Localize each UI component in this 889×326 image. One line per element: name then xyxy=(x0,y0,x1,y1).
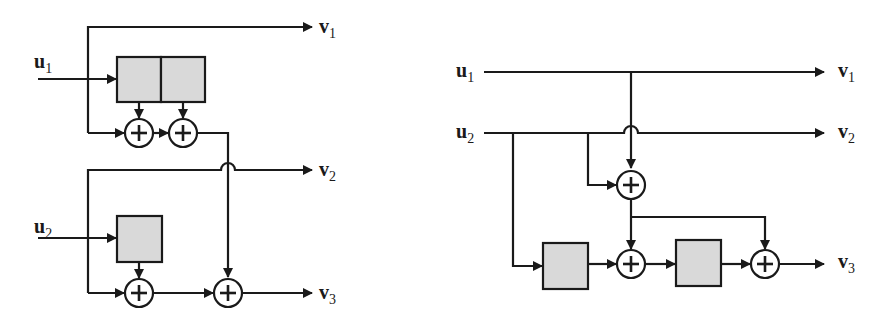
adder-3-right xyxy=(751,250,779,278)
label-v3-right: v3 xyxy=(838,250,855,276)
right-encoder: u1 u2 v1 v2 v3 xyxy=(456,59,855,289)
label-v1-left: v1 xyxy=(319,15,336,41)
tap-u2-to-register xyxy=(513,133,542,266)
left-encoder: u1 u2 v1 v2 v3 xyxy=(34,15,336,307)
adder-3-left xyxy=(125,279,153,307)
label-v1-right: v1 xyxy=(838,59,855,85)
wire-adder2-down xyxy=(197,133,228,277)
register-1 xyxy=(117,57,161,102)
wire-u2-v2-right xyxy=(484,126,824,133)
adder-1-left xyxy=(125,119,153,147)
tap-u2-to-adder xyxy=(588,133,616,185)
label-v2-left: v2 xyxy=(319,158,336,184)
label-u1-right: u1 xyxy=(456,59,474,85)
register-3 xyxy=(117,216,162,262)
label-v2-right: v2 xyxy=(838,120,855,146)
adder-2-right xyxy=(617,250,645,278)
register-a-right xyxy=(543,243,588,289)
adder-4-left xyxy=(214,279,242,307)
adder-2-left xyxy=(169,119,197,147)
label-v3-left: v3 xyxy=(319,281,336,307)
adder-1-right xyxy=(617,171,645,199)
encoder-diagrams: u1 u2 v1 v2 v3 xyxy=(0,0,889,326)
register-b-right xyxy=(676,240,721,286)
label-u1-left: u1 xyxy=(34,50,52,76)
register-2 xyxy=(161,57,205,102)
label-u2-right: u2 xyxy=(456,120,474,146)
